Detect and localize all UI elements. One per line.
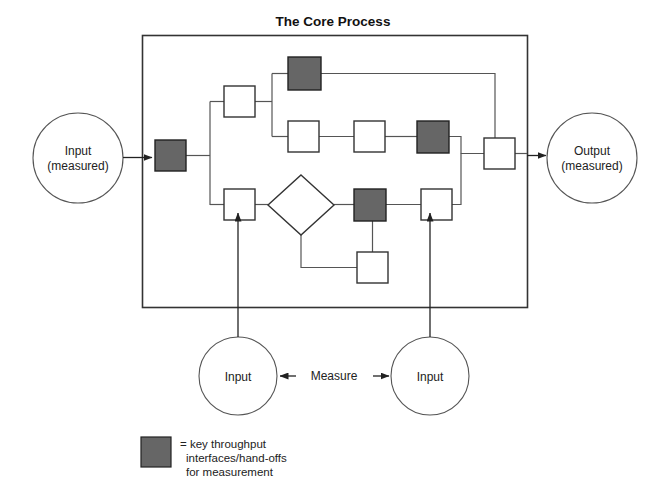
output-measured-label-line2: (measured) (561, 159, 622, 173)
legend-key-swatch (141, 437, 171, 467)
output-measured-label-line1: Output (574, 144, 611, 158)
node-lower-key[interactable] (354, 189, 386, 221)
node-mid-key[interactable] (417, 121, 449, 153)
input-measured-circle[interactable] (33, 113, 123, 203)
node-entry-key[interactable] (155, 140, 186, 171)
node-merge[interactable] (484, 138, 515, 169)
process-boundary-frame (143, 36, 528, 308)
connector-decision-loop (301, 235, 357, 268)
node-upper-branch[interactable] (224, 86, 255, 117)
connector-upper-key-bypass (321, 74, 495, 139)
measurement-input-right-label: Input (417, 370, 444, 384)
measure-label: Measure (311, 369, 358, 383)
node-lower-entry[interactable] (224, 189, 255, 220)
node-mid-a[interactable] (288, 121, 319, 152)
legend-line-2: interfaces/hand-offs (186, 452, 287, 464)
output-measured-circle[interactable] (547, 113, 637, 203)
node-lower-exit[interactable] (421, 189, 452, 220)
node-decision-diamond[interactable] (268, 175, 334, 235)
input-measured-label-line2: (measured) (47, 159, 108, 173)
node-mid-b[interactable] (354, 121, 385, 152)
connector-mid-key-to-merge (449, 137, 484, 154)
node-loop-back[interactable] (357, 252, 388, 283)
connector-lower-exit-to-merge (452, 154, 461, 205)
legend-line-3: for measurement (186, 466, 274, 478)
output-measured-node[interactable]: Output (measured) (547, 113, 637, 203)
legend-line-1: = key throughput (180, 438, 267, 450)
node-upper-key[interactable] (288, 57, 321, 90)
measurement-input-left-label: Input (225, 370, 252, 384)
page-title: The Core Process (276, 14, 391, 29)
input-measured-label-line1: Input (65, 144, 92, 158)
core-process-diagram: The Core Process (0, 0, 664, 501)
measurement-input-left[interactable]: Input (199, 337, 277, 415)
legend: = key throughput interfaces/hand-offs fo… (141, 437, 287, 478)
diagram-canvas: The Core Process (0, 0, 664, 501)
measurement-input-right[interactable]: Input (391, 337, 469, 415)
input-measured-node[interactable]: Input (measured) (33, 113, 123, 203)
